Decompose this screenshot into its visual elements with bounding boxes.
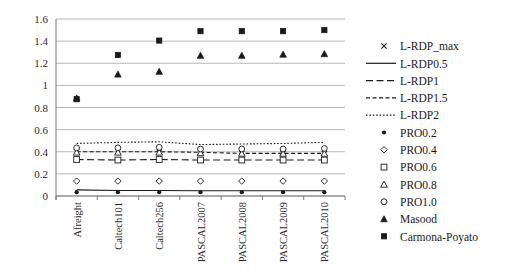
data-point-marker	[75, 190, 79, 194]
data-point-marker	[381, 216, 388, 222]
legend-item-l-rdp1-5[interactable]: L-RDP1.5	[366, 92, 448, 104]
data-point-marker	[280, 157, 286, 163]
scatter-chart: 00.20.40.60.811.21.41.6 AfreightCaltech1…	[0, 0, 522, 277]
data-point-marker	[157, 38, 162, 43]
legend-label: L-RDP2	[400, 109, 439, 121]
data-point-marker	[115, 145, 121, 151]
data-point-marker	[156, 68, 163, 74]
series-group	[73, 27, 327, 194]
data-point-marker	[198, 29, 203, 34]
data-point-marker	[322, 27, 327, 32]
y-axis-tick-label: 0.6	[34, 124, 48, 136]
legend-item-pro0-8[interactable]: PRO0.8	[381, 179, 437, 191]
data-point-marker	[157, 190, 161, 194]
data-point-marker	[115, 71, 122, 77]
x-axis-tick-label: Caltech256	[154, 202, 165, 250]
data-point-marker	[73, 178, 79, 184]
data-point-marker	[280, 51, 287, 57]
data-point-marker	[280, 178, 286, 184]
data-point-marker	[239, 146, 245, 152]
legend-item-l-rdp1[interactable]: L-RDP1	[366, 75, 439, 87]
data-point-marker	[198, 157, 204, 163]
legend-item-carmona-poyato[interactable]: Carmona-Poyato	[381, 231, 478, 244]
legend-label: L-RDP_max	[400, 40, 459, 52]
legend-item-pro0-2[interactable]: PRO0.2	[382, 127, 437, 139]
data-point-marker	[240, 190, 244, 194]
y-axis-tick-label: 1.4	[34, 35, 48, 47]
x-axis-tick-label: PASCAL2007	[196, 202, 207, 262]
data-point-marker	[156, 157, 162, 163]
data-point-marker	[381, 199, 387, 205]
data-point-marker	[238, 52, 245, 58]
legend-label: L-RDP1.5	[400, 92, 448, 104]
data-point-marker	[381, 43, 386, 48]
data-point-marker	[156, 178, 162, 184]
data-point-marker	[239, 178, 245, 184]
data-point-marker	[115, 178, 121, 184]
x-axis-tick-label: PASCAL2008	[237, 202, 248, 262]
data-point-marker	[321, 157, 327, 163]
data-point-marker	[198, 190, 202, 194]
legend-item-pro0-6[interactable]: PRO0.6	[381, 161, 437, 173]
series-masood	[73, 51, 327, 101]
axis-group	[56, 19, 345, 200]
legend-label: PRO0.2	[400, 127, 437, 139]
legend-label: Carmona-Poyato	[400, 231, 478, 244]
gridlines-group	[56, 19, 345, 196]
legend-group: L-RDP_maxL-RDP0.5L-RDP1L-RDP1.5L-RDP2PRO…	[366, 40, 478, 243]
y-axis-tick-label: 1.2	[34, 57, 48, 69]
x-axis-tick-label: Afreight	[72, 202, 83, 238]
y-axis-tick-label: 0	[43, 190, 49, 202]
legend-item-pro1-0[interactable]: PRO1.0	[381, 196, 437, 208]
legend-item-l-rdp2[interactable]: L-RDP2	[366, 109, 439, 121]
y-axis-tick-label: 0.4	[34, 146, 48, 158]
x-axis-labels-group: AfreightCaltech101Caltech256PASCAL2007PA…	[72, 202, 331, 262]
data-point-marker	[381, 181, 388, 187]
data-point-marker	[381, 164, 387, 170]
series-line	[77, 142, 325, 145]
legend-label: PRO0.4	[400, 144, 437, 156]
legend-item-masood[interactable]: Masood	[381, 213, 438, 225]
chart-container: 00.20.40.60.811.21.41.6 AfreightCaltech1…	[0, 0, 522, 277]
legend-item-pro0-4[interactable]: PRO0.4	[381, 144, 437, 156]
y-axis-tick-label: 1.6	[34, 13, 48, 25]
data-point-marker	[322, 190, 326, 194]
x-axis-tick-label: PASCAL2010	[319, 202, 330, 262]
data-point-marker	[321, 51, 328, 57]
legend-label: L-RDP0.5	[400, 58, 448, 70]
series-carmona-poyato	[74, 27, 327, 101]
legend-item-l-rdp-max[interactable]: L-RDP_max	[381, 40, 459, 52]
data-point-marker	[74, 157, 80, 163]
data-point-marker	[321, 178, 327, 184]
data-point-marker	[381, 234, 386, 239]
legend-item-l-rdp0-5[interactable]: L-RDP0.5	[366, 58, 448, 70]
data-point-marker	[280, 29, 285, 34]
data-point-marker	[198, 146, 204, 152]
data-point-marker	[281, 190, 285, 194]
x-axis-tick-label: PASCAL2009	[278, 202, 289, 262]
data-point-marker	[280, 146, 286, 152]
series-l-rdp2	[77, 142, 325, 145]
data-point-marker	[239, 157, 245, 163]
legend-label: PRO1.0	[400, 196, 437, 208]
y-axis-tick-label: 0.8	[34, 102, 48, 114]
data-point-marker	[197, 178, 203, 184]
data-point-marker	[382, 130, 386, 134]
data-point-marker	[115, 52, 120, 57]
data-point-marker	[116, 190, 120, 194]
data-point-marker	[115, 157, 121, 163]
data-point-marker	[321, 146, 327, 152]
series-pro1-0	[74, 144, 328, 151]
y-axis-labels-group: 00.20.40.60.811.21.41.6	[34, 13, 48, 202]
data-point-marker	[197, 52, 204, 58]
legend-label: Masood	[400, 213, 437, 225]
data-point-marker	[74, 97, 79, 102]
legend-label: L-RDP1	[400, 75, 439, 87]
x-axis-tick-label: Caltech101	[113, 202, 124, 250]
y-axis-tick-label: 1	[43, 79, 49, 91]
data-point-marker	[239, 29, 244, 34]
data-point-marker	[74, 145, 80, 151]
data-point-marker	[381, 147, 387, 153]
data-point-marker	[156, 144, 162, 150]
legend-label: PRO0.6	[400, 161, 437, 173]
